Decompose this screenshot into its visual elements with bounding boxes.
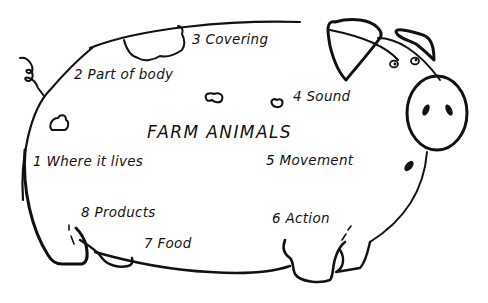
label-movement: 5 Movement [266, 152, 353, 168]
pig-right-leg [284, 240, 345, 282]
pig-snout [407, 76, 467, 150]
label-covering: 3 Covering [192, 31, 268, 47]
label-sound: 4 Sound [293, 88, 351, 104]
diagram-title: FARM ANIMALS [147, 122, 292, 142]
pig-chest [370, 152, 427, 242]
leg-dash [69, 225, 74, 244]
pig-belly [95, 252, 290, 273]
pig-mouth-dot [402, 159, 415, 173]
pig-body-outline [22, 22, 398, 200]
body-spot [271, 99, 282, 107]
body-spot [50, 115, 68, 130]
pig-eye-right [411, 58, 419, 65]
label-action: 6 Action [272, 210, 330, 226]
label-part-of-body: 2 Part of body [74, 66, 173, 82]
nostril-left [421, 103, 432, 116]
pig-ear-left [328, 20, 381, 80]
label-where-it-lives: 1 Where it lives [33, 153, 143, 169]
leg-dash-right [342, 226, 351, 240]
label-food: 7 Food [144, 235, 192, 251]
label-products: 8 Products [81, 204, 156, 220]
body-spot [206, 93, 223, 102]
nostril-right [444, 103, 455, 116]
pig-tail [20, 58, 44, 96]
